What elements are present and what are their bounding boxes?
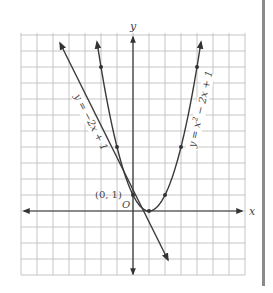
coordinate-graph: x y O (0, 1) y = −2x + 1 y = x2 − 2x + 1 (0, 0, 273, 293)
origin-label: O (122, 199, 130, 210)
y-axis-label: y (129, 20, 137, 33)
line-equation-label: y = −2x + 1 (70, 90, 110, 152)
x-axis-label: x (249, 205, 256, 218)
point-label: (0, 1) (95, 189, 122, 200)
line-y-neg2x-plus-1 (60, 43, 168, 260)
page-margin-bar (262, 0, 265, 286)
svg-text:y = −2x + 1: y = −2x + 1 (72, 91, 110, 152)
